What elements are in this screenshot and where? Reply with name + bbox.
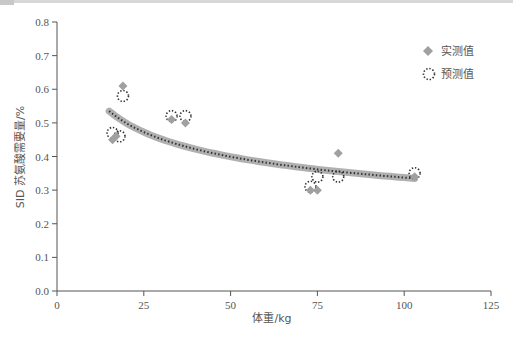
measured-point — [118, 81, 127, 90]
x-tick-label: 0 — [54, 299, 60, 311]
y-tick-label: 0.5 — [35, 117, 49, 129]
legend: 实测值 预测值 — [423, 44, 474, 81]
x-tick-label: 125 — [483, 299, 500, 311]
legend-predicted-label: 预测值 — [441, 68, 474, 81]
legend-diamond-icon — [423, 46, 433, 56]
y-tick-label: 0.1 — [35, 251, 49, 263]
x-tick-label: 25 — [138, 299, 150, 311]
x-axis-title: 体重/kg — [252, 311, 291, 325]
legend-measured-label: 实测值 — [441, 44, 474, 58]
x-tick-label: 50 — [225, 299, 237, 311]
measured-point — [334, 149, 343, 158]
chart: 0.00.10.20.30.40.50.60.70.80255075100125… — [0, 0, 513, 340]
legend-dotted-circle-icon — [424, 69, 435, 80]
y-tick-label: 0.0 — [35, 285, 49, 297]
y-tick-label: 0.7 — [35, 50, 49, 62]
fitted-curve — [109, 111, 415, 178]
fitted-curve-dots — [109, 111, 415, 178]
measured-point — [313, 186, 322, 195]
x-tick-label: 100 — [396, 299, 413, 311]
x-tick-label: 75 — [312, 299, 324, 311]
y-tick-label: 0.4 — [35, 151, 49, 163]
y-axis-title: SID 苏氨酸需要量/% — [13, 106, 27, 208]
y-tick-label: 0.2 — [35, 218, 49, 230]
predicted-point — [117, 90, 128, 101]
y-tick-label: 0.8 — [35, 16, 49, 28]
y-tick-label: 0.6 — [35, 83, 49, 95]
measured-point — [167, 115, 176, 124]
y-tick-label: 0.3 — [35, 184, 49, 196]
fitted-curve-band — [109, 111, 415, 178]
